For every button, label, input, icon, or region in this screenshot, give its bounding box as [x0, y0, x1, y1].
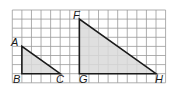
- label-c: C: [56, 73, 64, 85]
- label-b: B: [13, 73, 20, 85]
- label-h: H: [155, 73, 163, 85]
- label-a: A: [10, 36, 18, 48]
- similar-triangles-diagram: A B C F G H: [0, 0, 177, 110]
- label-g: G: [79, 73, 88, 85]
